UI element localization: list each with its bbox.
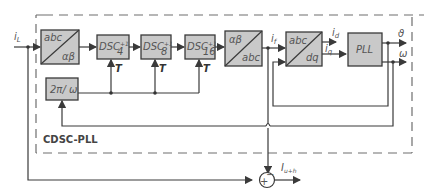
- dsc-16-block: DSC+1 16: [185, 35, 217, 59]
- frame-label: CDSC-PLL: [43, 134, 98, 145]
- i-f-label: if: [271, 33, 278, 46]
- svg-text:αβ: αβ: [62, 51, 76, 62]
- svg-text:αβ: αβ: [229, 34, 243, 45]
- i-d-label: id: [332, 27, 340, 40]
- output-label: Iu+h: [281, 162, 297, 174]
- svg-text:8: 8: [161, 46, 167, 57]
- svg-text:abc: abc: [242, 52, 260, 63]
- omega-output: ω: [399, 48, 407, 59]
- abc-to-dq-block: abc dq: [286, 32, 322, 66]
- period-bus: 2π/ ω T T T: [46, 60, 211, 100]
- svg-text:abc: abc: [289, 35, 307, 46]
- svg-text:T: T: [115, 63, 123, 74]
- theta-output: ϑ: [398, 28, 404, 39]
- abc-to-alphabeta-block: abc αβ: [41, 30, 79, 64]
- svg-text:dq: dq: [306, 52, 319, 63]
- dsc-8-block: DSC+1 8: [141, 35, 173, 59]
- pll-block: PLL: [348, 33, 382, 66]
- cdsc-pll-diagram: CDSC-PLL iL abc αβ DSC+1 4 DSC+1 8 DSC+1…: [0, 0, 428, 190]
- svg-text:T: T: [203, 63, 211, 74]
- summing-junction: + −: [260, 169, 275, 188]
- svg-text:16: 16: [203, 46, 216, 57]
- svg-text:−: −: [266, 169, 274, 180]
- alphabeta-to-abc-block: αβ abc: [225, 31, 262, 66]
- input-label: iL: [14, 31, 21, 44]
- svg-text:T: T: [159, 63, 167, 74]
- svg-text:PLL: PLL: [356, 44, 373, 55]
- svg-text:2π/ ω: 2π/ ω: [50, 84, 77, 95]
- svg-text:abc: abc: [44, 32, 62, 43]
- dsc-4-block: DSC+1 4: [97, 35, 129, 59]
- svg-text:4: 4: [117, 46, 123, 57]
